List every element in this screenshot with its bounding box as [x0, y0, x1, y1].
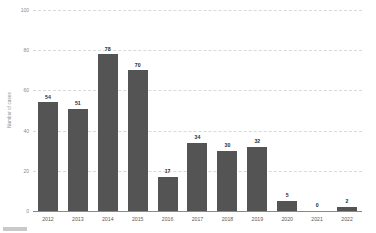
- x-axis-ticks: 2012201320142015201620172018201920202021…: [33, 214, 362, 228]
- bar-value-label: 2: [346, 199, 349, 204]
- bar-value-label: 78: [105, 47, 111, 52]
- y-axis-title: Number of cases: [7, 92, 12, 128]
- y-axis-tick-label: 0: [26, 209, 29, 214]
- y-axis-tick-label: 60: [23, 88, 29, 93]
- bar-value-label: 17: [165, 169, 171, 174]
- bar-slot[interactable]: 17: [153, 10, 183, 211]
- x-axis-tick-label: 2017: [183, 217, 213, 222]
- bar-slot[interactable]: 32: [242, 10, 272, 211]
- bar[interactable]: [187, 143, 207, 211]
- bar-value-label: 70: [135, 63, 141, 68]
- bar-value-label: 5: [286, 193, 289, 198]
- bar-slot[interactable]: 34: [183, 10, 213, 211]
- bar-value-label: 0: [316, 203, 319, 208]
- bar-value-label: 51: [75, 101, 81, 106]
- bar[interactable]: [128, 70, 148, 211]
- plot-area: 020406080100 5451787017343032502: [33, 10, 362, 211]
- bar-slot[interactable]: 51: [63, 10, 93, 211]
- bar[interactable]: [277, 201, 297, 211]
- bar[interactable]: [98, 54, 118, 211]
- bar-slot[interactable]: 0: [302, 10, 332, 211]
- scrollbar-artifact: [3, 227, 27, 231]
- bar[interactable]: [247, 147, 267, 211]
- x-axis-tick-label: 2021: [302, 217, 332, 222]
- bar-slot[interactable]: 2: [332, 10, 362, 211]
- x-axis-tick-label: 2022: [332, 217, 362, 222]
- x-axis-tick-label: 2016: [153, 217, 183, 222]
- x-axis-tick-label: 2019: [242, 217, 272, 222]
- bar-slot[interactable]: 30: [212, 10, 242, 211]
- bar-value-label: 30: [225, 143, 231, 148]
- bar-slot[interactable]: 5: [272, 10, 302, 211]
- x-axis-tick-label: 2020: [272, 217, 302, 222]
- bar-series: 5451787017343032502: [33, 10, 362, 211]
- x-axis-tick-label: 2015: [123, 217, 153, 222]
- bar-value-label: 34: [195, 135, 201, 140]
- x-axis-tick-label: 2013: [63, 217, 93, 222]
- y-axis-tick-label: 80: [23, 48, 29, 53]
- bar[interactable]: [38, 102, 58, 211]
- bar-value-label: 54: [45, 95, 51, 100]
- bar-chart: Number of cases 020406080100 54517870173…: [0, 0, 376, 233]
- y-axis-tick-label: 40: [23, 128, 29, 133]
- bar[interactable]: [217, 151, 237, 211]
- y-axis-tick-label: 100: [21, 8, 29, 13]
- bar-value-label: 32: [254, 139, 260, 144]
- x-axis-line: [33, 211, 362, 212]
- bar[interactable]: [158, 177, 178, 211]
- bar-slot[interactable]: 54: [33, 10, 63, 211]
- x-axis-tick-label: 2018: [212, 217, 242, 222]
- y-axis-tick-label: 20: [23, 168, 29, 173]
- x-axis-tick-label: 2014: [93, 217, 123, 222]
- bar[interactable]: [68, 109, 88, 212]
- bar-slot[interactable]: 70: [123, 10, 153, 211]
- bar-slot[interactable]: 78: [93, 10, 123, 211]
- x-axis-tick-label: 2012: [33, 217, 63, 222]
